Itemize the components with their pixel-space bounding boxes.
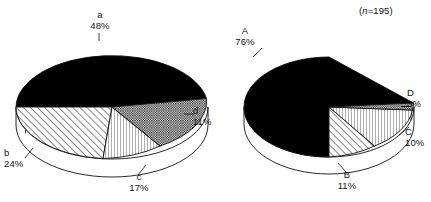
right-label-B: B 11% [331, 170, 363, 191]
right-label-B-value: 11% [331, 181, 363, 192]
right-label-A-value: 76% [228, 37, 262, 48]
right-label-D: D 3% [407, 88, 431, 109]
right-label-A: A 76% [228, 26, 262, 47]
right-label-D-key: D [407, 88, 431, 99]
right-pie-slices [244, 57, 413, 157]
right-label-C-value: 10% [405, 138, 431, 149]
right-label-D-value: 3% [407, 99, 431, 110]
sample-size-note: (n=195) [359, 5, 393, 16]
right-pie-graphic [0, 0, 431, 202]
figure-canvas: a 48% b 24% c 17% d 11% [0, 0, 431, 202]
sample-size-value: =195) [368, 5, 393, 16]
right-label-B-key: B [331, 170, 363, 181]
right-label-C: C 10% [405, 127, 431, 148]
right-label-A-key: A [228, 26, 262, 37]
right-label-C-key: C [405, 127, 431, 138]
